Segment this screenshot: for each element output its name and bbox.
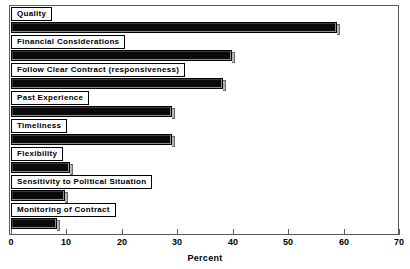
x-tick-label: 20 [117,238,127,247]
bar-chart: QualityFinancial ConsiderationsFollow Cl… [0,0,410,269]
bar [11,22,337,33]
category-label-box: Financial Considerations [11,35,125,49]
bar-container [11,22,337,33]
bar-row: Quality [11,7,399,35]
x-tick [122,229,123,235]
bar-container [11,78,223,89]
x-tick [11,229,12,235]
category-label-box: Timeliness [11,119,67,133]
bar-container [11,162,70,173]
bar [11,218,57,229]
x-tick [233,229,234,235]
x-axis-line [9,234,399,235]
x-tick-label: 70 [394,238,404,247]
bar-shadow [223,80,226,91]
bar [11,134,172,145]
x-tick-label: 40 [228,238,238,247]
x-tick-label: 60 [339,238,349,247]
category-label: Flexibility [17,150,57,158]
x-tick-label: 0 [8,238,13,247]
bar-rows: QualityFinancial ConsiderationsFollow Cl… [11,7,399,233]
bar-container [11,106,172,117]
x-tick [66,229,67,235]
x-tick [344,229,345,235]
category-label: Monitoring of Contract [17,206,110,214]
category-label: Past Experience [17,94,83,102]
bar-container [11,190,65,201]
bar [11,106,172,117]
bar [11,50,232,61]
bar-row: Timeliness [11,119,399,147]
category-label: Follow Clear Contract (responsiveness) [17,66,179,74]
category-label: Timeliness [17,122,61,130]
bar-shadow [172,108,175,119]
bar-row: Financial Considerations [11,35,399,63]
category-label-box: Past Experience [11,91,89,105]
bar-row: Follow Clear Contract (responsiveness) [11,63,399,91]
x-tick [177,229,178,235]
bar-shadow [70,164,73,175]
x-tick [399,229,400,235]
bar [11,162,70,173]
bar-container [11,134,172,145]
bar-shadow [337,24,340,35]
bar-container [11,50,232,61]
x-axis-title: Percent [0,253,410,263]
category-label: Sensitivity to Political Situation [17,178,146,186]
bar [11,78,223,89]
category-label-box: Sensitivity to Political Situation [11,175,152,189]
bar-row: Monitoring of Contract [11,203,399,231]
x-tick-label: 30 [172,238,182,247]
bar-row: Flexibility [11,147,399,175]
category-label-box: Quality [11,7,52,21]
bar-shadow [57,220,60,231]
x-tick-label: 50 [283,238,293,247]
bar-row: Past Experience [11,91,399,119]
category-label: Financial Considerations [17,38,119,46]
bar-shadow [172,136,175,147]
x-tick [288,229,289,235]
x-tick-label: 10 [61,238,71,247]
bar-shadow [65,192,68,203]
bar-row: Sensitivity to Political Situation [11,175,399,203]
bar [11,190,65,201]
bar-container [11,218,57,229]
category-label-box: Monitoring of Contract [11,203,116,217]
category-label-box: Follow Clear Contract (responsiveness) [11,63,185,77]
category-label: Quality [17,10,46,18]
bar-shadow [232,52,235,63]
category-label-box: Flexibility [11,147,63,161]
